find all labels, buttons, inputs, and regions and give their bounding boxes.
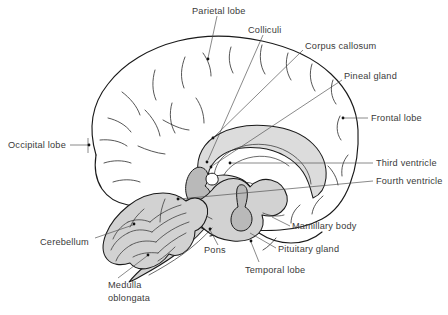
label-occipital-lobe: Occipital lobe (8, 140, 66, 150)
dot-medulla-oblongata (147, 254, 150, 257)
dot-third-ventricle (229, 162, 232, 165)
leader-corpus-callosum (214, 50, 303, 137)
cerebral-aqueduct (206, 173, 218, 185)
label-pineal-gland: Pineal gland (344, 71, 397, 81)
dot-occipital-lobe (88, 144, 91, 147)
dot-colliculi (206, 161, 209, 164)
label-cerebellum: Cerebellum (40, 237, 89, 247)
sagittal-brain-illustration: Parietal lobe Colliculi Corpus callosum … (0, 0, 448, 315)
label-pituitary-gland: Pituitary gland (278, 244, 339, 254)
label-medulla-line2: oblongata (108, 293, 151, 303)
dot-corpus-callosum (212, 137, 215, 140)
leader-mamillary-body (272, 217, 290, 226)
dot-temporal-lobe (250, 240, 253, 243)
label-parietal-lobe: Parietal lobe (192, 6, 246, 16)
dot-frontal-lobe (342, 117, 345, 120)
label-pons: Pons (204, 245, 226, 255)
dot-pons (209, 228, 212, 231)
temporal-lobe-border (259, 232, 322, 243)
dot-fourth-ventricle (177, 198, 180, 201)
dot-cerebellum (133, 223, 136, 226)
label-frontal-lobe: Frontal lobe (371, 113, 422, 123)
cerebellum-body (103, 193, 208, 269)
leader-parietal-lobe (208, 16, 217, 58)
label-fourth-ventricle: Fourth ventricle (376, 176, 443, 186)
dot-pineal-gland (210, 166, 213, 169)
brain-diagram-page: Parietal lobe Colliculi Corpus callosum … (0, 0, 448, 315)
label-mamillary-body: Mamillary body (292, 221, 357, 231)
label-third-ventricle: Third ventricle (376, 158, 437, 168)
label-temporal-lobe: Temporal lobe (245, 265, 305, 275)
dot-parietal-lobe (207, 58, 210, 61)
label-colliculi: Colliculi (248, 25, 281, 35)
label-corpus-callosum: Corpus callosum (305, 41, 377, 51)
cerebellum-group (103, 193, 208, 269)
leader-pineal-gland (212, 80, 342, 166)
label-medulla-line1: Medulla (108, 280, 142, 290)
leader-temporal-lobe (251, 242, 259, 262)
